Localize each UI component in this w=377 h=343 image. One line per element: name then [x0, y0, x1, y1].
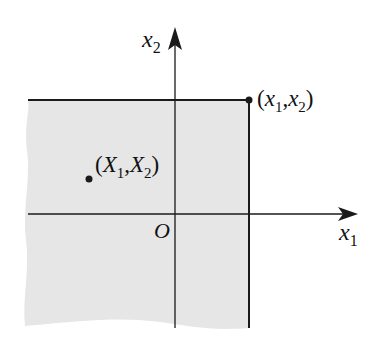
- random-point: [86, 176, 93, 183]
- region-diagram: x2 x1 O (x1,x2) (X1,X2): [0, 0, 377, 343]
- corner-point: [246, 97, 253, 104]
- x1-axis-label: x1: [338, 219, 358, 249]
- x2-axis-label: x2: [141, 26, 161, 56]
- origin-label: O: [154, 218, 170, 243]
- corner-point-label: (x1,x2): [257, 86, 314, 115]
